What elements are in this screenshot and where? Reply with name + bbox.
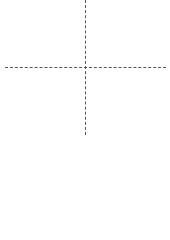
palette-strip[interactable] bbox=[5, 146, 137, 159]
horizontal-symmetry-axis bbox=[5, 67, 166, 68]
